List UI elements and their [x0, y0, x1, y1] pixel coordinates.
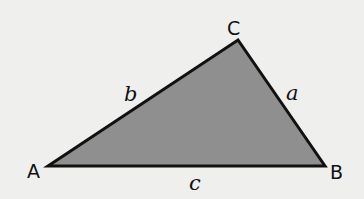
triangle-shape: [48, 40, 325, 166]
triangle-diagram: C A B b a c: [0, 0, 364, 199]
vertex-label-a: A: [27, 160, 40, 182]
side-label-c: c: [189, 171, 201, 195]
vertex-label-c: C: [227, 17, 240, 39]
vertex-label-b: B: [330, 161, 343, 183]
side-label-b: b: [124, 82, 137, 106]
side-label-a: a: [286, 81, 299, 105]
